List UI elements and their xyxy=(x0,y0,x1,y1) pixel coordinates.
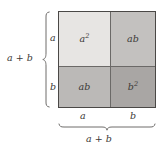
quadrant-a-squared-label: a2 xyxy=(79,34,89,44)
area-model-square: a2 ab ab b2 xyxy=(58,11,156,108)
bottom-total-label: a + b xyxy=(86,134,112,144)
left-total-label: a + b xyxy=(7,53,33,63)
bottom-segment-a-label: a xyxy=(80,111,86,121)
left-segment-a-label: a xyxy=(50,33,56,43)
quadrant-b-squared-label: b2 xyxy=(128,82,139,92)
quadrant-ab-bottom-left: ab xyxy=(59,67,111,107)
quadrant-ab-top-right: ab xyxy=(111,12,155,67)
quadrant-a-squared: a2 xyxy=(59,12,111,67)
bottom-brace xyxy=(58,123,156,132)
quadrant-ab-top-right-label: ab xyxy=(127,34,139,44)
binomial-square-diagram: a + b a b a2 ab ab b2 a b a + b xyxy=(0,0,165,151)
quadrant-ab-bottom-left-label: ab xyxy=(78,82,90,92)
left-segment-b-label: b xyxy=(50,82,56,92)
left-brace xyxy=(42,11,50,108)
bottom-segment-b-label: b xyxy=(130,111,136,121)
quadrant-b-squared: b2 xyxy=(111,67,155,107)
